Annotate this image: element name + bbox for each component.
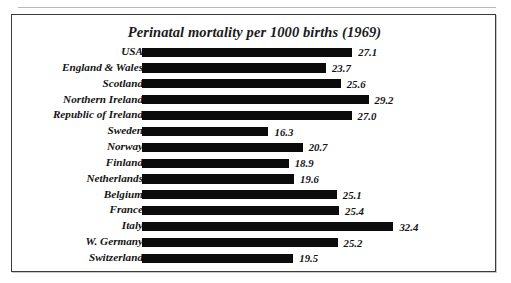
bar-value-label: 27.1 bbox=[358, 46, 377, 58]
bar-category-label: Netherlands bbox=[11, 172, 143, 185]
bar-fill: 19.5 bbox=[142, 254, 293, 263]
bar-fill: 23.7 bbox=[142, 63, 326, 72]
bar-track: 19.6 bbox=[142, 174, 442, 183]
bar-row: Northern Ireland29.2 bbox=[12, 93, 497, 109]
bar-category-label: Switzerland bbox=[11, 251, 143, 264]
bar-track: 16.3 bbox=[142, 127, 442, 136]
bar-row: France25.4 bbox=[12, 203, 497, 219]
bar-track: 29.2 bbox=[142, 95, 442, 104]
bar-row: Sweden16.3 bbox=[12, 124, 497, 140]
bar-value-label: 20.7 bbox=[309, 141, 328, 153]
figure-frame: Perinatal mortality per 1000 births (196… bbox=[11, 14, 496, 272]
bar-value-label: 23.7 bbox=[332, 62, 351, 74]
bar-category-label: France bbox=[11, 203, 143, 216]
bar-value-label: 19.6 bbox=[300, 173, 319, 185]
chart-title: Perinatal mortality per 1000 births (196… bbox=[12, 24, 497, 41]
bar-track: 32.4 bbox=[142, 222, 442, 231]
bar-category-label: Sweden bbox=[11, 124, 143, 137]
bar-row: USA27.1 bbox=[12, 45, 497, 61]
bar-category-label: USA bbox=[11, 45, 143, 58]
bar-row: Norway20.7 bbox=[12, 140, 497, 156]
bar-row: W. Germany25.2 bbox=[12, 235, 497, 251]
bar-category-label: Italy bbox=[11, 219, 143, 232]
bar-value-label: 25.4 bbox=[345, 205, 364, 217]
bar-track: 27.0 bbox=[142, 111, 442, 120]
bar-track: 19.5 bbox=[142, 254, 442, 263]
bar-category-label: W. Germany bbox=[11, 235, 143, 248]
bar-fill: 25.4 bbox=[142, 206, 339, 215]
bar-chart-plot-area: USA27.1England & Wales23.7Scotland25.6No… bbox=[12, 45, 497, 271]
bar-track: 27.1 bbox=[142, 48, 442, 57]
bar-category-label: Scotland bbox=[11, 77, 143, 90]
bar-row: Italy32.4 bbox=[12, 219, 497, 235]
bar-row: Netherlands19.6 bbox=[12, 172, 497, 188]
bar-value-label: 16.3 bbox=[274, 126, 293, 138]
bar-track: 23.7 bbox=[142, 63, 442, 72]
bar-value-label: 25.1 bbox=[343, 189, 362, 201]
bar-track: 18.9 bbox=[142, 159, 442, 168]
bar-fill: 32.4 bbox=[142, 222, 393, 231]
bar-fill: 29.2 bbox=[142, 95, 369, 104]
bar-value-label: 19.5 bbox=[299, 252, 318, 264]
bar-category-label: Norway bbox=[11, 140, 143, 153]
bar-category-label: England & Wales bbox=[11, 61, 143, 74]
bar-category-label: Finland bbox=[11, 156, 143, 169]
bar-category-label: Republic of Ireland bbox=[11, 108, 143, 121]
bar-fill: 27.1 bbox=[142, 48, 352, 57]
bar-track: 20.7 bbox=[142, 143, 442, 152]
bar-row: Switzerland19.5 bbox=[12, 251, 497, 267]
bar-row: Scotland25.6 bbox=[12, 77, 497, 93]
bar-fill: 18.9 bbox=[142, 159, 289, 168]
bar-value-label: 27.0 bbox=[358, 110, 377, 122]
bar-fill: 16.3 bbox=[142, 127, 268, 136]
bar-category-label: Northern Ireland bbox=[11, 93, 143, 106]
bar-row: England & Wales23.7 bbox=[12, 61, 497, 77]
bar-fill: 25.1 bbox=[142, 190, 337, 199]
bar-track: 25.4 bbox=[142, 206, 442, 215]
bar-track: 25.2 bbox=[142, 238, 442, 247]
bar-row: Belgium25.1 bbox=[12, 188, 497, 204]
bar-value-label: 25.2 bbox=[344, 237, 363, 249]
bar-fill: 19.6 bbox=[142, 174, 294, 183]
bar-value-label: 32.4 bbox=[399, 221, 418, 233]
scan-top-rule bbox=[18, 7, 496, 8]
bar-fill: 25.2 bbox=[142, 238, 338, 247]
bar-category-label: Belgium bbox=[11, 188, 143, 201]
bar-fill: 20.7 bbox=[142, 143, 303, 152]
bar-track: 25.6 bbox=[142, 79, 442, 88]
bar-fill: 27.0 bbox=[142, 111, 352, 120]
bar-track: 25.1 bbox=[142, 190, 442, 199]
bar-row: Finland18.9 bbox=[12, 156, 497, 172]
bar-fill: 25.6 bbox=[142, 79, 341, 88]
bar-value-label: 18.9 bbox=[295, 157, 314, 169]
bar-row: Republic of Ireland27.0 bbox=[12, 108, 497, 124]
scan-top-text-sliver bbox=[0, 0, 511, 6]
bar-value-label: 25.6 bbox=[347, 78, 366, 90]
bar-value-label: 29.2 bbox=[375, 94, 394, 106]
